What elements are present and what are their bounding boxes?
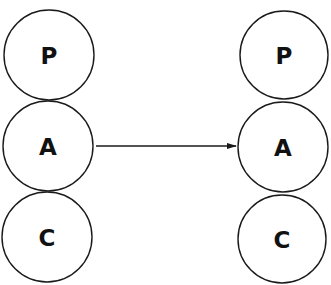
right-node-a: A [238,102,328,192]
right-node-c: C [238,195,326,283]
left-node-c: C [2,192,92,282]
left-label-p: P [41,43,58,69]
right-label-a: A [274,135,292,161]
left-node-p: P [4,10,94,100]
left-label-c: C [39,225,56,251]
right-label-c: C [274,227,291,253]
left-stack: P A C [2,10,94,282]
right-node-p: P [240,11,328,99]
diagram-canvas: P A C P A C [0,0,331,285]
right-label-p: P [276,43,293,69]
right-stack: P A C [238,11,328,283]
left-node-a: A [3,101,93,191]
left-label-a: A [39,134,57,160]
